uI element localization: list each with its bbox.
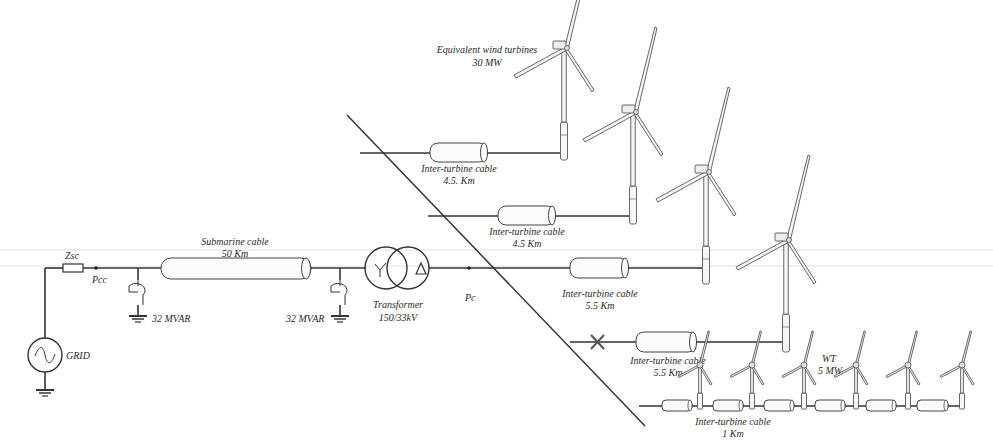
wind-turbine-icon [583,27,663,224]
feeder-3: Inter-turbine cable 5.5 Km [561,87,736,311]
small-wind-turbine-icon [886,331,920,409]
wind-turbine-icon [656,87,736,284]
feeder-3-cable-label-2: 5.5 Km [586,300,615,311]
string-cable-label-1: Inter-turbine cable [694,416,771,427]
submarine-cable-label-2: 50 Km [222,248,248,259]
transformer-label-1: Transformer [373,299,423,310]
feeder-2-cable-label-2: 4.5 Km [513,238,542,249]
grid-source: GRID [28,268,91,396]
string-cable-2 [713,400,743,411]
string-cable-1 [662,400,692,411]
wt-label-2: 5 MW [818,365,844,376]
reactor-icon [129,283,145,305]
submarine-cable-label-1: Submarine cable [201,236,269,247]
ground-icon [129,316,147,322]
feeder-1-cable-label-2: 4.5. Km [443,175,474,186]
transformer: Transformer 150/33kV [365,247,429,323]
delta-symbol-icon [416,263,426,274]
feeder-4-cable-label-1: Inter-turbine cable [629,355,706,366]
ground-icon [36,390,54,396]
pcc-node [94,266,98,270]
zsc-label: Zsc [65,250,79,261]
transformer-label-2: 150/33kV [379,312,419,323]
pcc-label: Pcc [91,274,108,285]
pc-node [467,266,471,270]
compensator-left-label: 32 MVAR [151,313,190,324]
feeder-2-cable-label-1: Inter-turbine cable [488,226,565,237]
feeder-1: Inter-turbine cable 4.5. Km [360,0,594,186]
wind-turbine-icon [736,155,816,352]
reactor-icon [331,283,347,305]
wind-turbine-icon [514,0,594,160]
ground-icon [331,316,349,322]
string-cable-6 [917,400,948,411]
string-cable-label-2: 1 Km [722,428,743,439]
feeder-3-cable-label-1: Inter-turbine cable [561,288,638,299]
submarine-cable: Submarine cable 50 Km [161,236,311,279]
wt-label-1: WT [822,353,837,364]
string-cable-5 [866,400,896,411]
equivalent-turbines-label-1: Equivalent wind turbines [436,44,538,55]
offshore-wind-farm-diagram: GRID Zsc Pcc 32 MVAR Submarine cable 50 … [0,0,993,448]
equivalent-turbines-label-2: 30 MW [471,57,503,68]
string-cable-3 [764,400,794,411]
grid-label: GRID [66,350,91,361]
pc-label: Pc [464,292,476,303]
small-wind-turbine-icon [940,331,974,409]
resistor-icon [63,264,83,272]
wye-symbol-icon [375,263,386,277]
zsc-impedance: Zsc [63,250,83,272]
feeder-1-cable-label-1: Inter-turbine cable [420,163,497,174]
compensator-right-label: 32 MVAR [285,313,324,324]
string-cable-4 [815,400,845,411]
